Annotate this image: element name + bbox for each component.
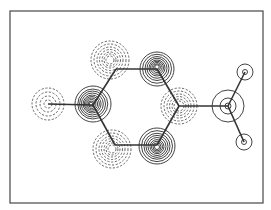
bond-line <box>228 106 244 142</box>
contour-line <box>148 138 166 156</box>
contour-plot-canvas <box>0 0 271 210</box>
negative-lobe-contours <box>91 41 129 79</box>
negative-lobe-contours <box>93 130 131 168</box>
orbital-contour-figure <box>0 0 271 210</box>
molecular-bonds <box>48 69 245 145</box>
contour-line <box>106 56 114 64</box>
contour-line <box>100 50 121 71</box>
contour-line <box>94 44 126 76</box>
bond-line <box>228 72 245 106</box>
contour-line <box>96 133 128 165</box>
contour-line <box>102 139 123 160</box>
bond-line <box>48 104 93 105</box>
contour-line <box>108 145 116 153</box>
positive-lobe-contours <box>139 128 175 164</box>
